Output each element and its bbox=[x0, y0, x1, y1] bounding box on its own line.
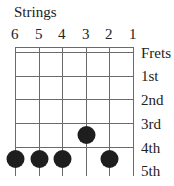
dot-string3-fret4 bbox=[78, 126, 96, 144]
dot-string4-fret5 bbox=[54, 150, 72, 168]
dot-string5-fret5 bbox=[31, 150, 49, 168]
dot-string6-fret5 bbox=[7, 150, 25, 168]
dot-string2-fret5 bbox=[101, 150, 119, 168]
fretboard-grid bbox=[0, 0, 174, 186]
